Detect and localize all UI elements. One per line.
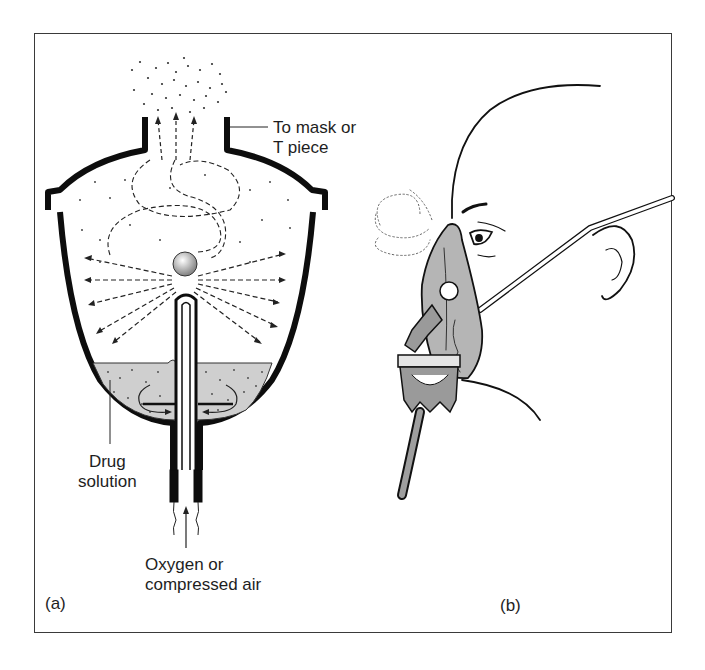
drug-solution-label: Drug solution — [78, 452, 137, 492]
figure-artwork — [0, 0, 705, 670]
nebuliser-cup-cap — [398, 355, 460, 367]
nebuliser-cup — [400, 367, 458, 412]
drug-label-line-2: solution — [78, 472, 137, 492]
outlet-label-line-2: T piece — [273, 138, 356, 158]
impaction-sphere — [173, 252, 197, 276]
vessel-wall — [48, 117, 325, 470]
outlet-label: To mask or T piece — [273, 118, 356, 158]
gas-inlet-label: Oxygen or compressed air — [145, 555, 261, 595]
inlet-label-line-1: Oxygen or — [145, 555, 261, 575]
aerosol-cloud — [131, 57, 227, 113]
mask-strap — [480, 198, 672, 310]
inlet-label-line-2: compressed air — [145, 575, 261, 595]
drug-label-line-1: Drug — [78, 452, 137, 472]
outflow-arrows — [158, 116, 194, 160]
panel-label-a: (a) — [45, 594, 66, 614]
child-mask-illustration — [375, 85, 672, 495]
feed-tube — [176, 295, 196, 470]
panel-label-b: (b) — [500, 596, 521, 616]
outlet-label-line-1: To mask or — [273, 118, 356, 138]
ear — [593, 226, 634, 299]
head-outline — [452, 85, 600, 218]
chamber-particles — [79, 174, 291, 263]
